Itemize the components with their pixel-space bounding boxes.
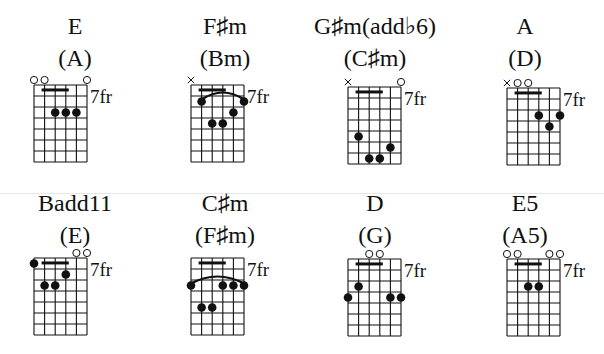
muted-string-icon (504, 80, 510, 86)
fretboard-grid (300, 177, 450, 354)
finger-dot (354, 132, 363, 141)
fretboard-grid (450, 177, 600, 354)
chord-diagram: E5 (A5) 7fr (450, 177, 600, 354)
open-string-icon (503, 250, 510, 257)
finger-dot (545, 122, 554, 131)
finger-dot (535, 282, 544, 291)
chord-diagram: Badd11 (E) 7fr (0, 177, 150, 354)
open-string-icon (546, 250, 553, 257)
open-string-icon (514, 250, 521, 257)
chord-diagram: G♯m(add♭6) (C♯m) 7fr (300, 0, 450, 177)
open-string-icon (73, 249, 80, 256)
finger-dot (62, 108, 71, 117)
muted-string-icon (345, 79, 351, 85)
finger-dot (208, 303, 217, 312)
finger-dot (524, 282, 533, 291)
chord-diagram: E (A) 7fr (0, 0, 150, 177)
finger-dot (397, 293, 406, 302)
open-string-icon (366, 250, 373, 257)
finger-dot (386, 143, 395, 152)
finger-dot (556, 111, 565, 120)
open-string-icon (556, 250, 563, 257)
finger-dot (51, 281, 60, 290)
fretboard-grid (0, 177, 150, 354)
open-string-icon (525, 79, 532, 86)
open-string-icon (397, 78, 404, 85)
finger-dot (40, 281, 49, 290)
finger-dot (535, 111, 544, 120)
fretboard-grid (150, 0, 300, 177)
finger-dot (51, 108, 60, 117)
chord-diagram: F♯m (Bm) 7fr (150, 0, 300, 177)
finger-dot (219, 119, 228, 128)
finger-dot (229, 281, 238, 290)
open-string-icon (514, 79, 521, 86)
finger-dot (197, 97, 206, 106)
chord-diagram: A (D) 7fr (450, 0, 600, 177)
open-string-icon (41, 76, 48, 83)
open-string-icon (83, 249, 90, 256)
finger-dot (376, 154, 385, 163)
finger-dot (344, 293, 353, 302)
fretboard-grid (150, 177, 300, 354)
fretboard-grid (0, 0, 150, 177)
finger-dot (219, 281, 228, 290)
finger-dot (386, 293, 395, 302)
chord-diagram: D (G) 7fr (300, 177, 450, 354)
muted-string-icon (188, 77, 194, 83)
finger-dot (72, 108, 81, 117)
finger-dot (187, 281, 196, 290)
finger-dot (240, 281, 249, 290)
finger-dot (30, 259, 39, 268)
chord-diagram: C♯m (F♯m) 7fr (150, 177, 300, 354)
finger-dot (229, 108, 238, 117)
fretboard-grid (300, 0, 450, 177)
open-string-icon (376, 250, 383, 257)
finger-dot (240, 97, 249, 106)
open-string-icon (30, 76, 37, 83)
open-string-icon (83, 76, 90, 83)
finger-dot (354, 282, 363, 291)
finger-dot (62, 270, 71, 279)
finger-dot (208, 119, 217, 128)
fretboard-grid (450, 0, 600, 177)
finger-dot (197, 303, 206, 312)
finger-dot (365, 154, 374, 163)
